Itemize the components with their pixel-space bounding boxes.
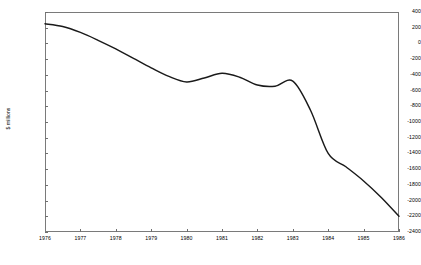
y-axis-tick-mark [45, 232, 48, 233]
y-axis-tick-mark [45, 43, 48, 44]
y-axis-tick-mark [45, 75, 48, 76]
x-axis-tick-mark [364, 229, 365, 232]
y-axis-tick-mark [45, 169, 48, 170]
y-axis-tick-mark [45, 153, 48, 154]
x-axis-tick-label: 1983 [273, 236, 313, 241]
x-axis-tick-label: 1986 [379, 236, 419, 241]
y-axis-tick-label: -2000 [383, 198, 421, 203]
x-axis-tick-mark [151, 229, 152, 232]
y-axis-tick-mark [45, 201, 48, 202]
y-axis-tick-label: -800 [383, 104, 421, 109]
y-axis-tick-mark [45, 138, 48, 139]
y-axis-tick-label: -1400 [383, 151, 421, 156]
x-axis-tick-mark [399, 229, 400, 232]
x-axis-tick-label: 1976 [25, 236, 65, 241]
y-axis-tick-label: -200 [383, 57, 421, 62]
y-axis-tick-mark [45, 28, 48, 29]
x-axis-tick-label: 1981 [202, 236, 242, 241]
y-axis-tick-mark [45, 59, 48, 60]
y-axis-tick-label: -1200 [383, 135, 421, 140]
y-axis-tick-label: -2200 [383, 214, 421, 219]
x-axis-tick-mark [328, 229, 329, 232]
y-axis-title: $ millions [6, 97, 11, 141]
x-axis-tick-mark [257, 229, 258, 232]
x-axis-tick-mark [222, 229, 223, 232]
x-axis-tick-label: 1977 [60, 236, 100, 241]
y-axis-tick-label: 0 [383, 41, 421, 46]
y-axis-tick-label: -1000 [383, 119, 421, 124]
y-axis-tick-label: -600 [383, 88, 421, 93]
x-axis-tick-mark [80, 229, 81, 232]
y-axis-tick-label: 200 [383, 25, 421, 30]
x-axis-tick-label: 1982 [237, 236, 277, 241]
x-axis-tick-label: 1984 [308, 236, 348, 241]
plot-area [45, 12, 399, 232]
y-axis-tick-label: -1800 [383, 182, 421, 187]
x-axis-tick-mark [293, 229, 294, 232]
x-axis-tick-mark [116, 229, 117, 232]
y-axis-tick-mark [45, 91, 48, 92]
y-axis-tick-label: -2400 [383, 229, 421, 234]
y-axis-title-wrapper: $ millions [2, 0, 14, 265]
y-axis-tick-label: -400 [383, 72, 421, 77]
x-axis-tick-label: 1979 [131, 236, 171, 241]
y-axis-tick-mark [45, 106, 48, 107]
y-axis-tick-mark [45, 12, 48, 13]
y-axis-tick-mark [45, 216, 48, 217]
x-axis-tick-label: 1980 [167, 236, 207, 241]
chart-container: $ millions 4002000-200-400-600-800-1000-… [0, 0, 421, 265]
y-axis-tick-mark [45, 122, 48, 123]
y-axis-tick-label: -1600 [383, 167, 421, 172]
x-axis-tick-mark [187, 229, 188, 232]
x-axis-tick-label: 1978 [96, 236, 136, 241]
y-axis-tick-label: 400 [383, 9, 421, 14]
y-axis-tick-mark [45, 185, 48, 186]
x-axis-tick-label: 1985 [344, 236, 384, 241]
